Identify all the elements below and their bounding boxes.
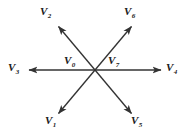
vector-label-v3: V3	[8, 62, 19, 73]
vector-symbol-v3: V	[8, 61, 15, 73]
zero-vector-label-v0: V0	[64, 55, 75, 66]
vector-symbol-v2: V	[40, 5, 47, 17]
vector-line-v5	[95, 70, 132, 114]
vector-label-v6: V6	[124, 6, 135, 17]
vector-subscript-v2: 2	[48, 12, 52, 20]
vector-lines-canvas	[0, 0, 185, 139]
vector-label-v5: V5	[131, 115, 142, 126]
zero-vector-subscript-v7: 7	[116, 61, 120, 69]
vector-symbol-v6: V	[124, 5, 131, 17]
vector-arrows	[29, 27, 161, 114]
zero-vector-symbol-v7: V	[108, 54, 115, 66]
vector-symbol-v4: V	[166, 61, 173, 73]
zero-vector-symbol-v0: V	[64, 54, 71, 66]
vector-symbol-v1: V	[45, 114, 52, 126]
zero-vector-label-v7: V7	[108, 55, 119, 66]
vector-subscript-v3: 3	[16, 68, 20, 76]
vector-subscript-v1: 1	[53, 121, 57, 129]
vector-label-v2: V2	[40, 6, 51, 17]
vector-line-v1	[59, 70, 96, 114]
vector-label-v4: V4	[166, 62, 177, 73]
zero-vector-subscript-v0: 0	[72, 61, 76, 69]
vector-symbol-v5: V	[131, 114, 138, 126]
vector-subscript-v5: 5	[139, 121, 143, 129]
vector-label-v1: V1	[45, 115, 56, 126]
space-vector-diagram: V2 V6 V3 V4 V1 V5 V0 V7	[0, 0, 185, 139]
vector-subscript-v6: 6	[132, 12, 136, 20]
vector-subscript-v4: 4	[174, 68, 178, 76]
